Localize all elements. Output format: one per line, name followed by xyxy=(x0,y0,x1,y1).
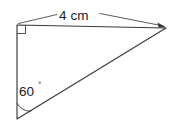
side-length-label: 4 cm xyxy=(59,8,89,23)
angle-value-label: 60 xyxy=(19,84,34,99)
dimension-arrowhead-right-icon xyxy=(158,22,167,27)
dimension-leader-left xyxy=(19,15,58,24)
angle-degree-symbol-icon: ˚ xyxy=(39,81,42,91)
dimension-leader-right xyxy=(100,14,164,27)
triangle-figure: 4 cm 60 ˚ xyxy=(0,0,175,123)
right-angle-marker-icon xyxy=(17,25,26,33)
triangle-outline-path xyxy=(17,25,166,119)
angle-arc-marker-icon xyxy=(17,103,31,111)
geometry-diagram: 4 cm 60 ˚ xyxy=(0,0,175,123)
